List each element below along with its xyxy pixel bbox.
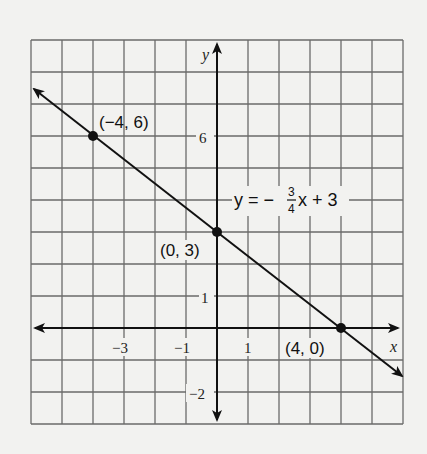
equation-denominator: 4 [288, 202, 295, 216]
y-tick-neg2: −2 [189, 386, 205, 402]
y-axis-label: y [200, 46, 210, 64]
equation-prefix: y = − [234, 190, 274, 210]
x-tick-neg3: −3 [112, 340, 128, 356]
x-tick-neg1: −1 [174, 340, 190, 356]
point-label-4-0: (4, 0) [285, 339, 325, 358]
point-neg4-6 [88, 131, 98, 141]
point-label-0-3: (0, 3) [160, 241, 200, 260]
y-tick-1: 1 [201, 290, 209, 306]
point-4-0 [336, 323, 346, 333]
x-tick-1: 1 [244, 340, 252, 356]
point-0-3 [212, 227, 222, 237]
equation-numerator: 3 [288, 185, 295, 199]
point-label-neg4-6: (−4, 6) [99, 113, 149, 132]
equation-suffix: x + 3 [298, 190, 338, 210]
y-tick-6: 6 [199, 130, 207, 146]
coordinate-plane: y x 6 1 −2 −3 −1 1 y = − 3 4 x + 3 (−4, … [0, 0, 427, 454]
x-axis-label: x [389, 338, 397, 355]
